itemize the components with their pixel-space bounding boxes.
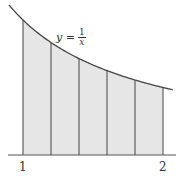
equation-denominator: x [79,38,84,47]
tick-label-2: 2 [159,160,167,174]
shaded-region [23,20,163,155]
equation-label: y = 1x [56,28,86,47]
diagram-canvas [0,0,183,183]
diagram: y = 1x 1 2 [0,0,183,183]
tick-label-1: 1 [19,160,27,174]
equation-lhs: y = [56,31,75,44]
